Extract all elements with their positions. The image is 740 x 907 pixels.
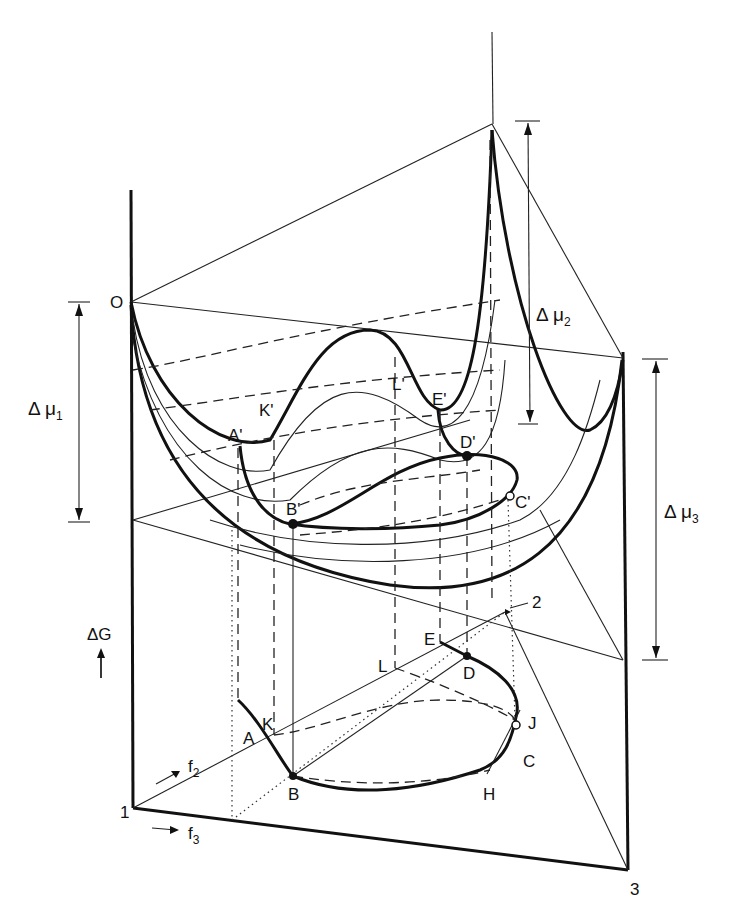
surface-front-curve xyxy=(131,305,622,588)
label-corner-1: 1 xyxy=(120,803,129,822)
label-J: J xyxy=(528,714,537,733)
label-L: L xyxy=(378,657,387,676)
dimension-arrows xyxy=(68,121,668,834)
edge-1-vertical xyxy=(131,190,133,808)
label-K-prime: K' xyxy=(259,401,274,420)
label-E-prime: E' xyxy=(432,390,447,409)
point-C-prime xyxy=(506,492,514,500)
label-corner-3: 3 xyxy=(630,880,639,899)
label-H: H xyxy=(483,785,495,804)
label-f2: f2 xyxy=(188,757,200,780)
label-mu3: Δ μ3 xyxy=(664,501,699,526)
plane-edge-1-3 xyxy=(133,520,623,660)
point-B xyxy=(289,772,297,780)
point-C xyxy=(512,721,520,729)
surface-contour-4 xyxy=(240,520,560,561)
diagram-canvas: O 1 2 3 Δ μ1 Δ μ2 Δ μ3 ΔG f2 f3 A' K' L'… xyxy=(0,0,740,907)
label-A-prime: A' xyxy=(228,426,243,445)
label-E: E xyxy=(424,630,435,649)
mu2-dimension-line xyxy=(528,123,530,422)
edge-2-vertical-top xyxy=(492,32,493,124)
point-B-prime xyxy=(288,519,298,529)
base-dashed-tie-2 xyxy=(395,668,515,720)
label-corner-2: 2 xyxy=(532,593,541,612)
label-mu2: Δ μ2 xyxy=(536,304,571,329)
label-B-prime: B' xyxy=(286,500,301,519)
label-delta-G: ΔG xyxy=(87,625,112,644)
ternary-free-energy-diagram: O 1 2 3 Δ μ1 Δ μ2 Δ μ3 ΔG f2 f3 A' K' L'… xyxy=(0,0,740,907)
tie-line-2 xyxy=(150,370,500,410)
point-D xyxy=(463,652,471,660)
plane-edge-2-3 xyxy=(540,510,623,660)
base-dashed-tie-3 xyxy=(293,770,490,783)
surface-contour-1 xyxy=(133,300,495,471)
f3-arrow-icon xyxy=(170,826,179,834)
surface-contour-2 xyxy=(133,340,505,501)
label-A: A xyxy=(243,729,255,748)
label-D-prime: D' xyxy=(460,433,476,452)
up-arrow-icon xyxy=(97,648,105,658)
label-L-prime: L' xyxy=(392,375,405,394)
points xyxy=(288,451,520,780)
label-mu1: Δ μ1 xyxy=(28,398,63,423)
base-edge-1-3 xyxy=(133,808,628,870)
point-2-arrowhead xyxy=(505,609,511,615)
energy-surface xyxy=(131,130,623,600)
surface-right-curve xyxy=(492,130,623,431)
base-dashed-tie-1 xyxy=(274,700,515,735)
top-edge-O-2 xyxy=(131,124,492,302)
label-B: B xyxy=(288,785,299,804)
surface-binodal-lens xyxy=(240,446,517,529)
label-D: D xyxy=(463,664,475,683)
tie-line-4 xyxy=(300,470,480,505)
label-f3: f3 xyxy=(188,824,200,847)
label-C-prime: C' xyxy=(515,493,531,512)
label-K: K xyxy=(262,715,274,734)
label-C: C xyxy=(523,752,535,771)
edge-3-vertical xyxy=(623,352,628,870)
label-origin: O xyxy=(110,293,123,312)
base-H-J-line xyxy=(487,710,520,774)
point-D-prime xyxy=(462,451,472,461)
base-edge-2-3 xyxy=(505,612,628,870)
